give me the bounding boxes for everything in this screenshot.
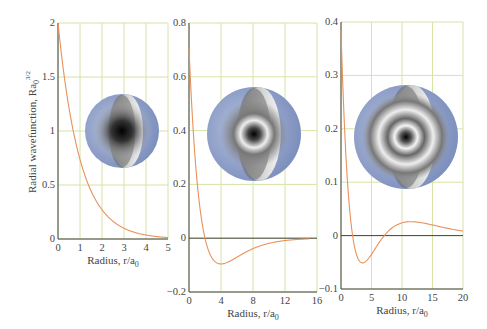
x-tick-label: 15 [427, 292, 438, 303]
chart-panel-2s: 0481216−0.200.20.40.60.8Radius, r/a0 [167, 17, 322, 322]
x-tick-label: 0 [338, 292, 343, 303]
x-tick-label: 0 [186, 295, 191, 306]
y-tick-label: 0 [50, 233, 55, 244]
x-axis-label: Radius, r/a0 [87, 254, 139, 269]
y-tick-label: 1.5 [42, 71, 55, 82]
y-tick-label: 0.2 [173, 178, 186, 189]
x-tick-label: 3 [121, 242, 126, 253]
x-tick-label: 5 [165, 242, 170, 253]
chart-panel-3s: 05101520−0.100.10.20.30.4Radius, r/a0 [319, 16, 468, 319]
x-tick-label: 20 [458, 292, 469, 303]
y-tick-label: 0.2 [325, 123, 338, 134]
y-tick-label: 2 [50, 17, 55, 28]
x-tick-label: 16 [312, 295, 323, 306]
orbital-sphere-2s [207, 87, 301, 181]
x-axis-label: Radius, r/a0 [227, 307, 279, 322]
radial-wavefunction-figure: 01234500.511.52Radius, r/a00481216−0.200… [0, 0, 487, 329]
y-axis-label: Radial wavefunction, Ra03/2 [24, 71, 41, 194]
y-tick-label: 0.3 [325, 69, 338, 80]
y-tick-label: 0.4 [173, 125, 187, 136]
y-tick-label: −0.2 [167, 286, 186, 297]
x-tick-label: 8 [250, 295, 255, 306]
x-tick-label: 10 [397, 292, 408, 303]
x-tick-label: 4 [218, 295, 224, 306]
orbital-sphere-1s [85, 94, 159, 168]
x-tick-label: 2 [99, 242, 104, 253]
y-tick-label: 0.1 [325, 176, 338, 187]
y-tick-label: −0.1 [319, 283, 338, 294]
orbital-sphere-3s [354, 85, 458, 189]
x-tick-label: 5 [369, 292, 374, 303]
y-tick-label: 0.6 [173, 71, 186, 82]
y-tick-label: 0.4 [325, 16, 339, 27]
y-tick-label: 1 [50, 125, 55, 136]
x-tick-label: 0 [55, 242, 60, 253]
x-tick-label: 12 [280, 295, 291, 306]
y-tick-label: 0.8 [173, 17, 186, 28]
x-axis-label: Radius, r/a0 [376, 304, 428, 319]
chart-panel-1s: 01234500.511.52Radius, r/a0 [42, 17, 171, 269]
y-tick-label: 0 [333, 230, 338, 241]
x-tick-label: 1 [77, 242, 82, 253]
y-tick-label: 0 [181, 232, 186, 243]
y-tick-label: 0.5 [42, 179, 55, 190]
x-tick-label: 4 [143, 242, 149, 253]
